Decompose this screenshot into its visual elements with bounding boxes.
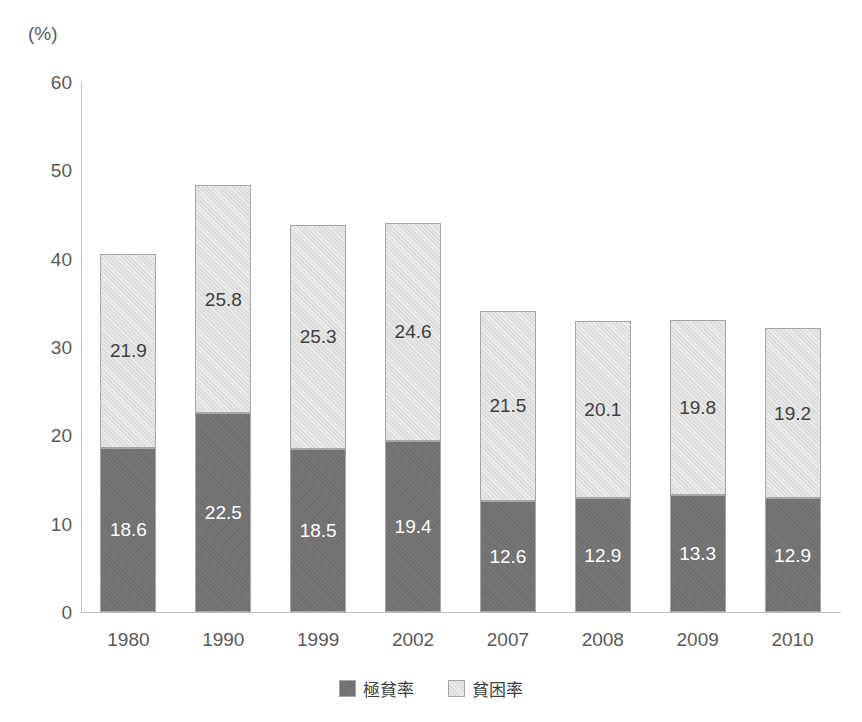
- bar-group-2008[interactable]: 12.920.1: [575, 321, 631, 613]
- y-tick-50: 50: [12, 161, 72, 180]
- bar-value-label: 12.6: [489, 547, 526, 566]
- x-tick-2008: 2008: [555, 630, 650, 649]
- bar-group-2010[interactable]: 12.919.2: [765, 328, 821, 612]
- stacked-bar-chart: (%) 6050403020100 18.621.922.525.818.525…: [0, 0, 862, 722]
- y-tick-60: 60: [12, 73, 72, 92]
- y-tick-20: 20: [12, 426, 72, 445]
- bar-group-2002[interactable]: 19.424.6: [385, 223, 441, 612]
- bar-segment-extreme-poverty-2009[interactable]: 13.3: [670, 495, 726, 612]
- x-tick-2002: 2002: [366, 630, 461, 649]
- bar-segment-poverty-2008[interactable]: 20.1: [575, 321, 631, 499]
- chart-legend: 極貧率貧困率: [0, 676, 862, 701]
- bar-segment-extreme-poverty-2010[interactable]: 12.9: [765, 498, 821, 612]
- y-tick-0: 0: [12, 603, 72, 622]
- bar-segment-extreme-poverty-1980[interactable]: 18.6: [100, 448, 156, 612]
- x-axis-line: [81, 612, 841, 613]
- bar-group-2009[interactable]: 13.319.8: [670, 320, 726, 612]
- x-tick-2007: 2007: [461, 630, 556, 649]
- x-tick-2009: 2009: [650, 630, 745, 649]
- legend-label: 極貧率: [363, 676, 414, 701]
- bar-segment-extreme-poverty-2002[interactable]: 19.4: [385, 441, 441, 612]
- y-axis-tick-labels: 6050403020100: [8, 0, 72, 722]
- y-tick-40: 40: [12, 249, 72, 268]
- bar-value-label: 24.6: [395, 322, 432, 341]
- plot-area: 18.621.922.525.818.525.319.424.612.621.5…: [81, 82, 840, 612]
- bar-value-label: 20.1: [584, 400, 621, 419]
- bar-value-label: 13.3: [679, 544, 716, 563]
- bar-value-label: 12.9: [774, 546, 811, 565]
- legend-item-extreme-poverty[interactable]: 極貧率: [339, 676, 414, 701]
- legend-item-poverty[interactable]: 貧困率: [448, 676, 523, 701]
- bar-group-1990[interactable]: 22.525.8: [195, 185, 251, 612]
- y-tick-30: 30: [12, 338, 72, 357]
- bar-segment-extreme-poverty-2007[interactable]: 12.6: [480, 501, 536, 612]
- bar-segment-poverty-1990[interactable]: 25.8: [195, 185, 251, 413]
- legend-swatch-icon: [339, 680, 356, 697]
- bar-value-label: 25.8: [205, 290, 242, 309]
- bar-value-label: 25.3: [300, 327, 337, 346]
- bar-value-label: 18.6: [110, 520, 147, 539]
- x-tick-1990: 1990: [176, 630, 271, 649]
- bar-value-label: 22.5: [205, 503, 242, 522]
- bar-group-2007[interactable]: 12.621.5: [480, 311, 536, 612]
- bar-value-label: 18.5: [300, 521, 337, 540]
- legend-swatch-icon: [448, 680, 465, 697]
- x-tick-2010: 2010: [745, 630, 840, 649]
- bar-segment-poverty-2007[interactable]: 21.5: [480, 311, 536, 501]
- x-tick-1999: 1999: [271, 630, 366, 649]
- bar-value-label: 19.8: [679, 398, 716, 417]
- x-tick-1980: 1980: [81, 630, 176, 649]
- bar-value-label: 19.2: [774, 404, 811, 423]
- bar-segment-extreme-poverty-2008[interactable]: 12.9: [575, 498, 631, 612]
- bar-group-1999[interactable]: 18.525.3: [290, 225, 346, 612]
- bar-value-label: 21.5: [489, 396, 526, 415]
- bar-segment-poverty-2009[interactable]: 19.8: [670, 320, 726, 495]
- bar-value-label: 21.9: [110, 341, 147, 360]
- bar-segment-poverty-2010[interactable]: 19.2: [765, 328, 821, 498]
- bar-segment-poverty-2002[interactable]: 24.6: [385, 223, 441, 440]
- y-tick-10: 10: [12, 514, 72, 533]
- bar-value-label: 12.9: [584, 546, 621, 565]
- bar-segment-poverty-1999[interactable]: 25.3: [290, 225, 346, 448]
- bar-segment-extreme-poverty-1999[interactable]: 18.5: [290, 449, 346, 612]
- bar-segment-poverty-1980[interactable]: 21.9: [100, 254, 156, 447]
- bar-value-label: 19.4: [395, 517, 432, 536]
- legend-label: 貧困率: [472, 676, 523, 701]
- bar-segment-extreme-poverty-1990[interactable]: 22.5: [195, 413, 251, 612]
- bar-group-1980[interactable]: 18.621.9: [100, 254, 156, 612]
